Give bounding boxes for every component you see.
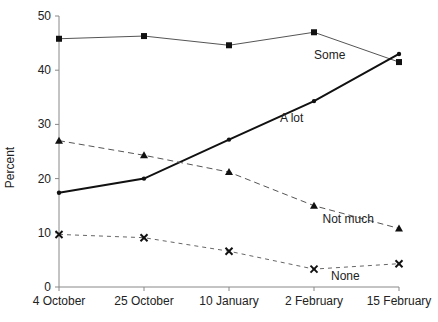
dot-marker — [57, 190, 61, 194]
x-tick-label: 4 October — [33, 294, 86, 308]
x-tick-label: 10 January — [199, 294, 258, 308]
square-marker — [56, 36, 62, 42]
y-tick-label: 10 — [38, 226, 52, 240]
dot-marker — [142, 176, 146, 180]
y-tick-label: 50 — [38, 9, 52, 23]
series-label: None — [331, 269, 360, 283]
y-axis-title: Percent — [3, 146, 17, 188]
square-marker — [141, 33, 147, 39]
x-tick-label: 25 October — [114, 294, 173, 308]
x-tick-label: 2 February — [285, 294, 343, 308]
y-tick-label: 20 — [38, 172, 52, 186]
series-label: A lot — [280, 111, 304, 125]
dot-marker — [312, 99, 316, 103]
square-marker — [396, 59, 402, 65]
line-chart: 010203040504 October25 October10 January… — [0, 0, 438, 322]
dot-marker — [397, 52, 401, 56]
square-marker — [226, 42, 232, 48]
x-tick-label: 15 February — [367, 294, 432, 308]
y-tick-label: 40 — [38, 63, 52, 77]
square-marker — [311, 29, 317, 35]
triangle-marker — [395, 224, 403, 231]
y-tick-label: 0 — [44, 280, 51, 294]
series-label: Not much — [323, 212, 374, 226]
triangle-marker — [310, 202, 318, 209]
series-label: Some — [314, 48, 346, 62]
dot-marker — [227, 137, 231, 141]
y-tick-label: 30 — [38, 117, 52, 131]
triangle-marker — [55, 137, 63, 144]
chart-canvas: 010203040504 October25 October10 January… — [0, 0, 438, 322]
